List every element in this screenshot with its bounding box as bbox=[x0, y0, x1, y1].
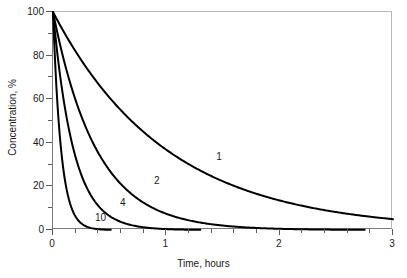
curve-2 bbox=[53, 12, 365, 230]
x-tick bbox=[301, 229, 302, 233]
x-tick-label: 3 bbox=[389, 238, 395, 249]
y-tick bbox=[48, 120, 52, 121]
curve-label-4: 4 bbox=[120, 197, 126, 208]
curve-10 bbox=[53, 12, 111, 230]
curve-label-2: 2 bbox=[154, 175, 160, 186]
x-tick bbox=[347, 229, 348, 233]
y-tick-label: 0 bbox=[0, 224, 44, 235]
y-tick bbox=[46, 11, 52, 12]
y-tick bbox=[46, 142, 52, 143]
y-tick bbox=[46, 55, 52, 56]
x-tick bbox=[369, 229, 370, 233]
y-tick bbox=[48, 33, 52, 34]
curve-4 bbox=[53, 12, 200, 230]
y-tick bbox=[48, 76, 52, 77]
x-tick bbox=[392, 229, 393, 235]
x-tick bbox=[143, 229, 144, 233]
curve-1 bbox=[53, 12, 393, 219]
x-axis-title: Time, hours bbox=[0, 258, 407, 269]
x-tick bbox=[75, 229, 76, 233]
curve-label-1: 1 bbox=[216, 151, 222, 162]
y-tick-label: 100 bbox=[0, 6, 44, 17]
curves-group bbox=[53, 12, 393, 230]
x-tick bbox=[324, 229, 325, 233]
x-tick bbox=[211, 229, 212, 233]
x-tick bbox=[165, 229, 166, 235]
y-tick bbox=[46, 185, 52, 186]
chart-figure: 0123 020406080100 12410 Time, hours Conc… bbox=[0, 0, 407, 278]
x-tick bbox=[120, 229, 121, 233]
x-tick-label: 1 bbox=[163, 238, 169, 249]
y-tick bbox=[48, 207, 52, 208]
plot-area bbox=[52, 11, 392, 229]
y-tick bbox=[48, 164, 52, 165]
x-tick bbox=[233, 229, 234, 233]
curve-label-10: 10 bbox=[95, 212, 106, 223]
y-tick bbox=[46, 98, 52, 99]
x-tick-label: 0 bbox=[49, 238, 55, 249]
y-axis-title: Concentration, % bbox=[7, 43, 18, 193]
x-tick bbox=[256, 229, 257, 233]
x-tick bbox=[188, 229, 189, 233]
x-tick bbox=[279, 229, 280, 235]
x-tick bbox=[52, 229, 53, 235]
x-tick-label: 2 bbox=[276, 238, 282, 249]
y-tick bbox=[46, 229, 52, 230]
x-tick bbox=[97, 229, 98, 233]
